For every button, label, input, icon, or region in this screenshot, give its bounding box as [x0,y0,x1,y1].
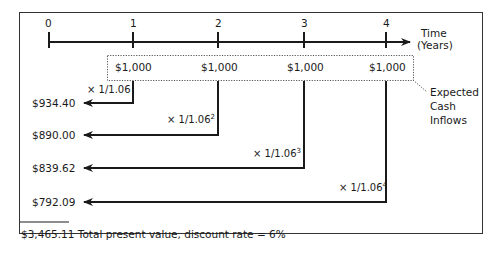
present-value-3: $839.62 [32,162,75,174]
axis-label-time: Time [421,27,447,39]
outer-frame [20,13,483,234]
cash-inflow-1: $1,000 [115,61,152,73]
period-label-0: 0 [45,17,52,29]
period-label-4: 4 [383,17,390,29]
discount-factor-2: × 1/1.062 [167,114,215,126]
total-present-value: $3,465.11 Total present value, discount … [21,228,286,240]
present-value-2: $890.00 [32,129,75,141]
period-label-2: 2 [215,17,222,29]
discount-factor-3: × 1/1.063 [253,148,301,160]
axis-label-years: (Years) [417,39,453,51]
callout-cash: Cash [430,100,456,112]
cash-inflow-3: $1,000 [287,61,324,73]
cash-inflows-box [108,56,414,81]
timeline-ticks [49,32,386,48]
discount-factor-1: × 1/1.06 [87,84,131,96]
present-value-1: $934.40 [32,97,75,109]
callout-inflows: Inflows [430,114,467,126]
period-label-3: 3 [301,17,308,29]
callout-leader [413,80,427,92]
discount-factor-4: × 1/1.064 [339,182,387,194]
callout-expected: Expected [430,86,479,98]
cash-inflow-2: $1,000 [201,61,238,73]
present-value-4: $792.09 [32,196,75,208]
period-label-1: 1 [130,17,137,29]
cash-inflow-4: $1,000 [369,61,406,73]
